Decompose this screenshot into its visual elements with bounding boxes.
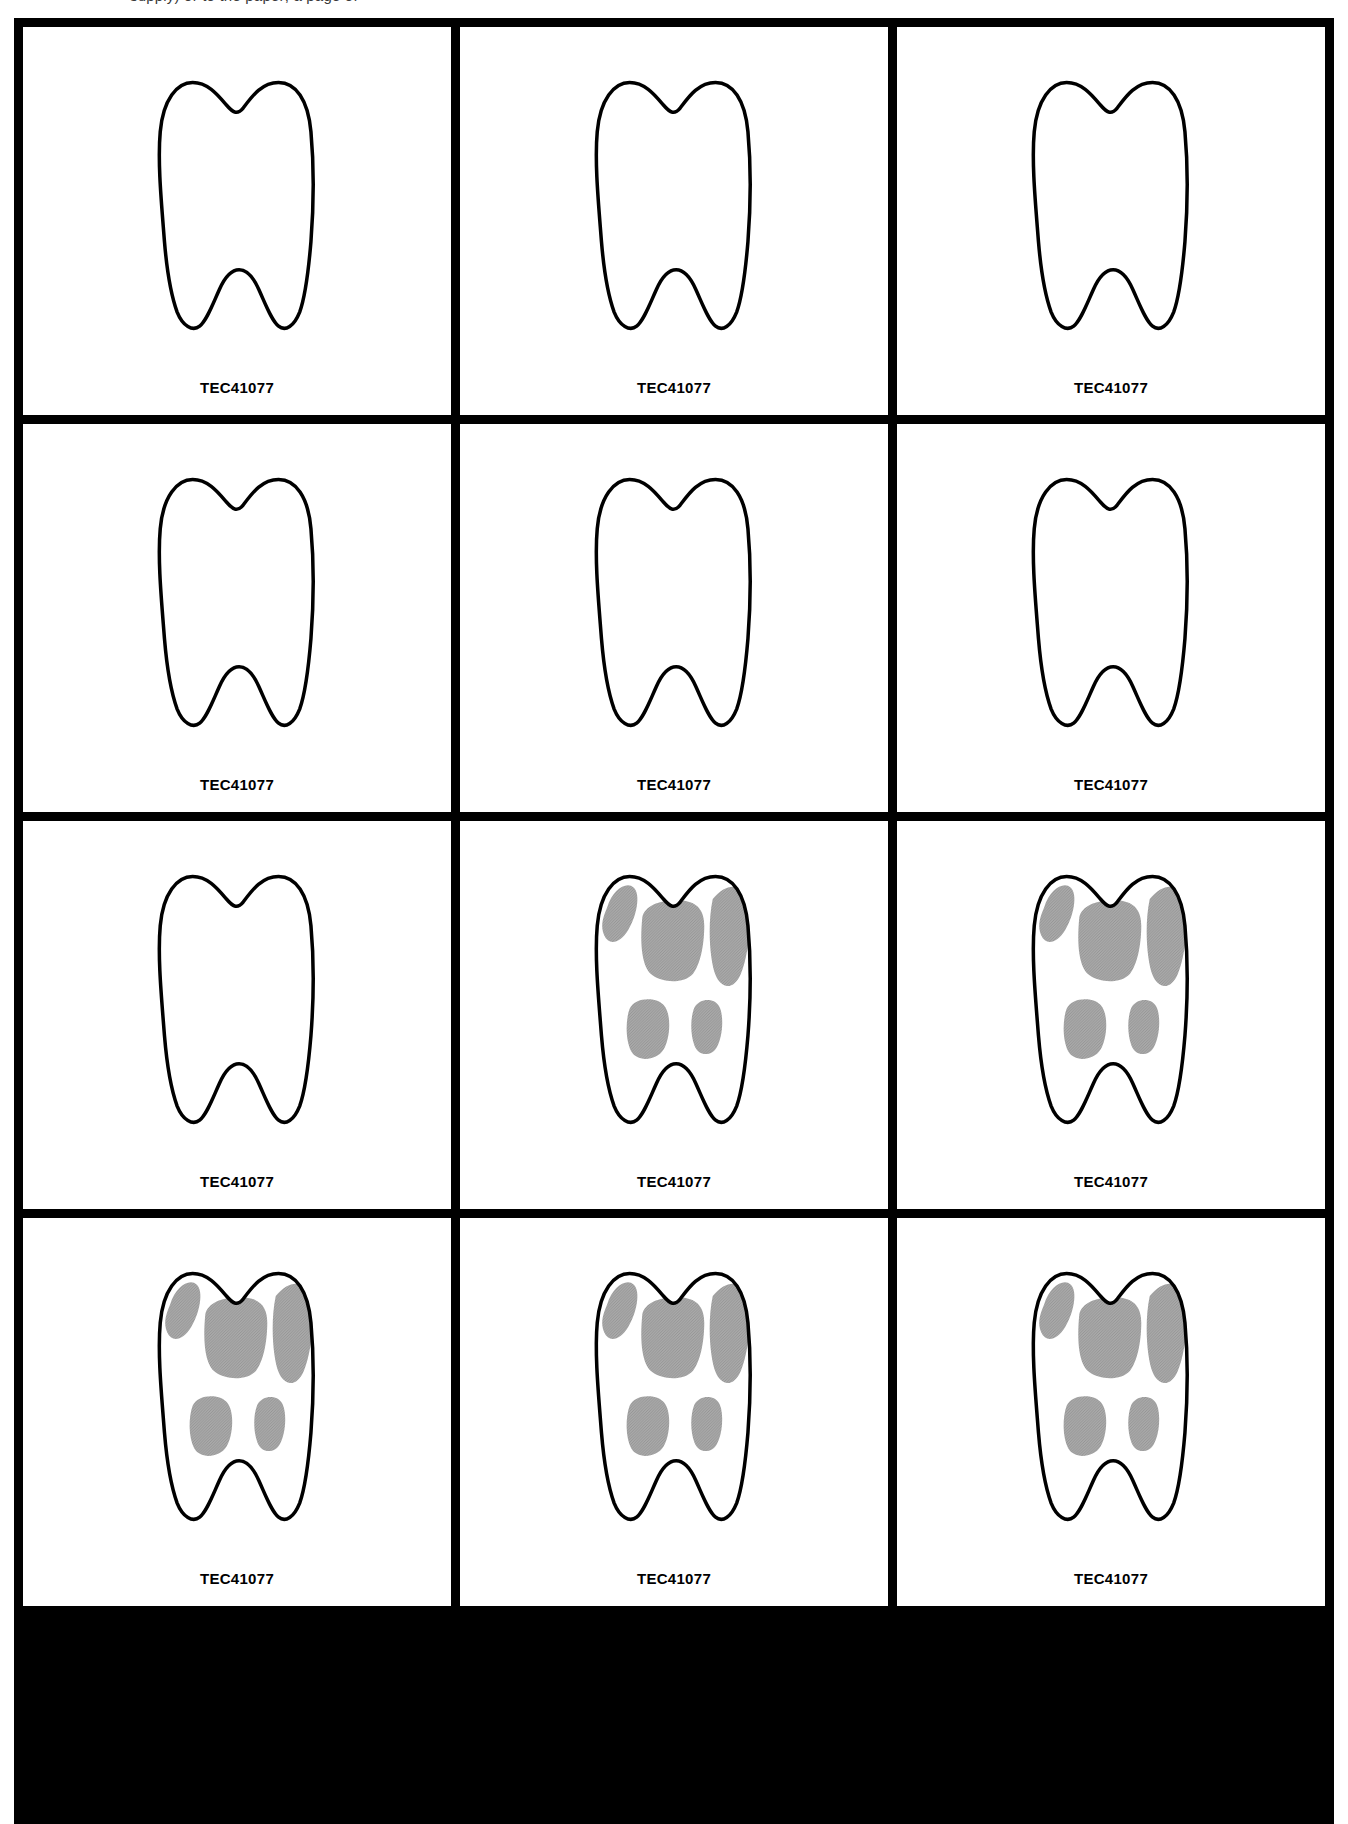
tooth-code-label: TEC41077 bbox=[897, 1570, 1325, 1587]
tooth-cell[interactable]: TEC41077 bbox=[23, 27, 451, 415]
lesion-spot bbox=[1128, 1000, 1159, 1054]
clipped-header-text: supply) or to the paper; a page of bbox=[0, 0, 1348, 13]
worksheet-sheet: TEC41077TEC41077TEC41077TEC41077TEC41077… bbox=[14, 18, 1334, 1824]
tooth-drawing bbox=[897, 31, 1325, 415]
tooth-drawing bbox=[897, 825, 1325, 1209]
lesion-spot bbox=[1078, 900, 1141, 981]
tooth-outline-svg bbox=[87, 31, 387, 379]
tooth-cell[interactable]: TEC41077 bbox=[23, 1218, 451, 1606]
lesion-group bbox=[165, 1282, 312, 1456]
lesion-spot bbox=[691, 1397, 722, 1451]
lesion-spot bbox=[204, 1297, 267, 1378]
tooth-outline-svg bbox=[961, 825, 1261, 1173]
tooth-drawing bbox=[23, 428, 451, 812]
tooth-outline-path bbox=[159, 479, 313, 725]
tooth-code-label: TEC41077 bbox=[460, 776, 888, 793]
tooth-outline-path bbox=[159, 876, 313, 1122]
tooth-outline-svg bbox=[961, 31, 1261, 379]
tooth-cell[interactable]: TEC41077 bbox=[897, 821, 1325, 1209]
lesion-spot bbox=[254, 1397, 285, 1451]
tooth-code-label: TEC41077 bbox=[23, 1173, 451, 1190]
tooth-drawing bbox=[460, 825, 888, 1209]
lesion-group bbox=[602, 885, 749, 1059]
tooth-cell[interactable]: TEC41077 bbox=[897, 424, 1325, 812]
lesion-spot bbox=[641, 900, 704, 981]
tooth-drawing bbox=[897, 428, 1325, 812]
tooth-cell[interactable]: TEC41077 bbox=[460, 424, 888, 812]
tooth-code-label: TEC41077 bbox=[460, 1570, 888, 1587]
tooth-outline-path bbox=[1033, 479, 1187, 725]
tooth-outline-path bbox=[596, 479, 750, 725]
tooth-outline-svg bbox=[87, 1222, 387, 1570]
lesion-spot bbox=[1078, 1297, 1141, 1378]
tooth-cell[interactable]: TEC41077 bbox=[897, 1218, 1325, 1606]
tooth-outline-svg bbox=[87, 428, 387, 776]
tooth-outline-path bbox=[159, 82, 313, 328]
lesion-spot bbox=[1064, 999, 1107, 1059]
tooth-cell[interactable]: TEC41077 bbox=[460, 821, 888, 1209]
tooth-code-label: TEC41077 bbox=[460, 1173, 888, 1190]
tooth-drawing bbox=[23, 31, 451, 415]
lesion-spot bbox=[190, 1396, 233, 1456]
tooth-code-label: TEC41077 bbox=[460, 379, 888, 396]
tooth-code-label: TEC41077 bbox=[23, 776, 451, 793]
tooth-drawing bbox=[23, 1222, 451, 1606]
tooth-code-label: TEC41077 bbox=[897, 776, 1325, 793]
tooth-outline-svg bbox=[524, 1222, 824, 1570]
tooth-cell[interactable]: TEC41077 bbox=[23, 424, 451, 812]
tooth-cell[interactable]: TEC41077 bbox=[23, 821, 451, 1209]
tooth-code-label: TEC41077 bbox=[23, 1570, 451, 1587]
lesion-group bbox=[1039, 885, 1186, 1059]
lesion-spot bbox=[1064, 1396, 1107, 1456]
tooth-code-label: TEC41077 bbox=[897, 379, 1325, 396]
tooth-outline-svg bbox=[524, 428, 824, 776]
tooth-grid: TEC41077TEC41077TEC41077TEC41077TEC41077… bbox=[23, 27, 1325, 1606]
tooth-cell[interactable]: TEC41077 bbox=[460, 1218, 888, 1606]
tooth-code-label: TEC41077 bbox=[897, 1173, 1325, 1190]
tooth-drawing bbox=[897, 1222, 1325, 1606]
tooth-outline-svg bbox=[524, 825, 824, 1173]
tooth-outline-svg bbox=[87, 825, 387, 1173]
lesion-spot bbox=[1128, 1397, 1159, 1451]
tooth-outline-path bbox=[596, 82, 750, 328]
tooth-drawing bbox=[460, 31, 888, 415]
clipped-header-label: supply) or to the paper; a page of bbox=[130, 0, 358, 4]
lesion-group bbox=[602, 1282, 749, 1456]
tooth-outline-svg bbox=[524, 31, 824, 379]
tooth-code-label: TEC41077 bbox=[23, 379, 451, 396]
lesion-spot bbox=[641, 1297, 704, 1378]
tooth-cell[interactable]: TEC41077 bbox=[460, 27, 888, 415]
lesion-spot bbox=[627, 999, 670, 1059]
lesion-spot bbox=[627, 1396, 670, 1456]
tooth-outline-svg bbox=[961, 1222, 1261, 1570]
tooth-drawing bbox=[23, 825, 451, 1209]
tooth-cell[interactable]: TEC41077 bbox=[897, 27, 1325, 415]
lesion-spot bbox=[691, 1000, 722, 1054]
tooth-outline-svg bbox=[961, 428, 1261, 776]
tooth-drawing bbox=[460, 1222, 888, 1606]
tooth-outline-path bbox=[1033, 82, 1187, 328]
lesion-group bbox=[1039, 1282, 1186, 1456]
tooth-drawing bbox=[460, 428, 888, 812]
